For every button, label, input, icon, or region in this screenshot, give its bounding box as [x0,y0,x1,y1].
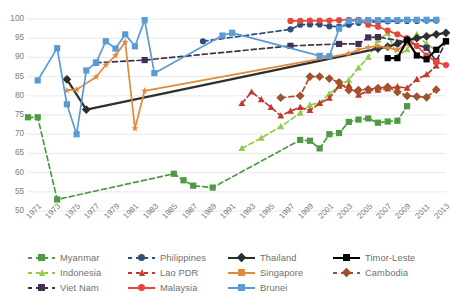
legend-marker-triangle-icon [39,269,45,276]
chart-container: 10095908580757065605550 1971197319751977… [0,0,451,298]
legend-label: Viet Nam [60,283,99,293]
data-point-marker [365,54,372,60]
y-axis-tick-label: 80 [2,92,24,100]
legend-swatch-icon [28,252,55,263]
data-point-marker [317,145,323,151]
data-point-marker [443,62,449,68]
data-point-marker [414,17,420,23]
y-axis-tick-label: 65 [2,149,24,157]
data-point-marker [297,104,304,110]
plot-area [0,0,451,222]
data-point-marker [277,123,284,129]
data-point-marker [74,131,80,137]
legend-swatch-icon [333,252,360,263]
data-point-marker [276,93,285,102]
legend-item-brunei[interactable]: Brunei [228,281,287,294]
legend-label: Indonesia [60,268,101,278]
data-point-marker [394,31,400,37]
data-point-marker [296,91,305,100]
data-point-marker [35,77,41,83]
legend-item-cambodia[interactable]: Cambodia [333,266,408,279]
legend-swatch-icon [128,252,155,263]
data-point-marker [403,91,412,100]
data-point-marker [64,101,70,107]
data-point-marker [325,74,334,83]
legend-marker-star-icon [238,269,245,276]
data-point-marker [142,57,148,63]
legend-swatch-icon [128,282,155,293]
data-point-marker [385,27,391,33]
data-point-marker [443,38,449,44]
data-point-marker [365,34,371,40]
legend-item-malaysia[interactable]: Malaysia [128,281,197,294]
data-point-marker [404,17,410,23]
legend-marker-diamond-icon [237,253,247,263]
legend-label: Timor-Leste [365,253,415,263]
legend-marker-diamond-icon [342,268,352,278]
data-point-marker [248,88,255,94]
legend-item-myanmar[interactable]: Myanmar [28,251,99,264]
y-axis-tick-label: 60 [2,169,24,177]
data-point-marker [151,70,157,76]
data-point-marker [385,118,391,124]
data-point-marker [422,32,431,41]
data-point-marker [423,17,429,23]
data-point-marker [375,34,381,40]
data-point-marker [210,184,216,190]
data-point-marker [385,17,391,23]
legend-label: Malaysia [160,283,197,293]
legend-marker-square-icon [238,284,245,291]
data-point-marker [122,31,128,37]
plot-svg [0,0,451,222]
series-myanmar [25,103,410,203]
data-point-marker [287,26,293,32]
data-point-marker [317,17,323,23]
data-point-marker [394,55,400,61]
legend-swatch-icon [228,282,255,293]
legend-swatch-icon [28,282,55,293]
chart-legend: MyanmarPhilippinesThailandTimor-LesteInd… [28,251,446,297]
legend-item-singapore[interactable]: Singapore [228,266,303,279]
legend-marker-circle-icon [138,284,145,291]
legend-swatch-icon [28,267,55,278]
data-point-marker [433,47,439,53]
data-point-marker [365,17,371,23]
data-point-marker [35,114,41,120]
data-point-marker [404,103,410,109]
data-point-marker [307,138,313,144]
y-axis-tick-label: 55 [2,188,24,196]
data-point-marker [412,92,421,101]
data-point-marker [171,171,177,177]
legend-label: Philippines [160,253,206,263]
legend-item-timor-leste[interactable]: Timor-Leste [333,251,415,264]
legend-marker-triangle-icon [139,269,145,276]
data-point-marker [200,38,206,44]
data-point-marker [297,137,303,143]
legend-item-viet-nam[interactable]: Viet Nam [28,281,99,294]
legend-item-thailand[interactable]: Thailand [228,251,296,264]
data-point-marker [93,60,99,66]
y-axis-tick-label: 95 [2,34,24,42]
data-point-marker [374,84,383,93]
y-axis-tick-label: 70 [2,130,24,138]
data-point-marker [297,18,303,24]
data-point-marker [25,114,31,120]
data-point-marker [346,18,352,24]
data-point-marker [346,119,352,125]
legend-item-lao-pdr[interactable]: Lao PDR [128,266,198,279]
data-point-marker [414,43,420,49]
legend-item-philippines[interactable]: Philippines [128,251,206,264]
data-point-marker [355,17,361,23]
data-point-marker [287,18,293,24]
y-axis-tick-label: 50 [2,207,24,215]
data-point-marker [326,17,332,23]
data-point-marker [180,177,186,183]
data-point-marker [375,17,381,23]
data-point-marker [336,41,342,47]
data-point-marker [54,45,60,51]
data-point-marker [229,30,235,36]
legend-item-indonesia[interactable]: Indonesia [28,266,101,279]
data-point-marker [432,30,441,39]
data-point-marker [423,56,429,62]
data-point-marker [297,110,304,116]
